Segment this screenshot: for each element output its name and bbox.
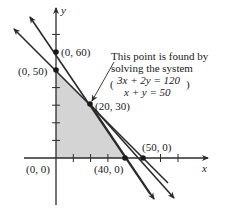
annotation-paren-right: ) — [186, 78, 190, 91]
x-axis-label: x — [201, 162, 207, 174]
label-0-50: (0, 50) — [18, 65, 48, 78]
label-0-0: (0, 0) — [26, 163, 50, 176]
point-40-0 — [122, 155, 128, 161]
feasible-region — [56, 70, 125, 158]
annotation-eq-2: x + y = 50 — [123, 86, 171, 98]
label-50-0: (50, 0) — [142, 141, 172, 154]
point-20-30 — [87, 101, 93, 107]
point-0-60 — [53, 49, 59, 55]
lp-diagram: y x (0, 60) (0, 50) (20, 30) (0, 0) (40,… — [0, 0, 227, 215]
point-0-50 — [53, 67, 59, 73]
annotation-line-2: solving the system — [111, 62, 193, 74]
annotation-line-1: This point is found by — [111, 50, 209, 62]
label-0-60: (0, 60) — [61, 46, 91, 59]
point-50-0 — [140, 155, 146, 161]
label-40-0: (40, 0) — [94, 163, 124, 176]
label-20-30: (20, 30) — [95, 100, 130, 113]
annotation-paren-left: ( — [110, 78, 114, 91]
annotation-eq-1: 3x + 2y = 120 — [116, 74, 181, 86]
y-axis-label: y — [60, 4, 66, 16]
